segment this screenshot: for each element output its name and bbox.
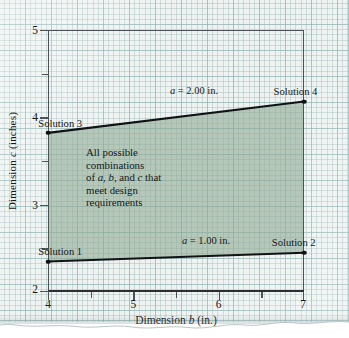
region-text-line-5: requirements xyxy=(86,196,161,209)
region-text-line-2: combinations xyxy=(86,159,161,172)
region-text-line-3-c: , and xyxy=(114,171,138,183)
y-label-4: 4 xyxy=(32,111,38,123)
feasible-region-description: All possible combinations of a, b, and c… xyxy=(86,146,161,209)
lower-line-label: a = 1.00 in. xyxy=(182,235,230,246)
solution-1-point xyxy=(46,259,51,264)
x-tick-6p5 xyxy=(261,292,262,299)
torn-paper-edge xyxy=(0,314,349,338)
x-label-6: 6 xyxy=(216,298,222,310)
axis-frame-top xyxy=(48,30,304,31)
x-label-5: 5 xyxy=(130,298,136,310)
region-text-line-3-a: of xyxy=(86,171,98,183)
y-tick-4p5 xyxy=(42,74,49,75)
x-tick-5p5 xyxy=(176,292,177,299)
y-axis-title-post: (inches) xyxy=(6,112,18,152)
y-label-5: 5 xyxy=(32,24,38,36)
region-text-line-3: of a, b, and c that xyxy=(86,171,161,184)
y-label-3: 3 xyxy=(32,199,38,211)
solution-2-point xyxy=(302,250,307,255)
lower-line-label-value: = 1.00 in. xyxy=(187,235,230,246)
region-text-line-1: All possible xyxy=(86,146,161,159)
solution-3-label: Solution 3 xyxy=(38,118,82,129)
y-tick-3 xyxy=(40,205,49,206)
upper-line-label-value: = 2.00 in. xyxy=(175,85,218,96)
region-text-line-4: meet design xyxy=(86,184,161,197)
figure-canvas: 5 4 3 2 4 5 6 7 Dimension c (inches) Dim… xyxy=(0,0,349,338)
solution-2-label: Solution 2 xyxy=(272,237,316,248)
solution-4-point xyxy=(302,99,307,104)
region-text-line-3-d: that xyxy=(142,171,161,183)
x-tick-4p5 xyxy=(91,292,92,299)
y-axis-title: Dimension c (inches) xyxy=(6,112,18,210)
upper-line-label: a = 2.00 in. xyxy=(170,85,218,96)
solution-4-label: Solution 4 xyxy=(274,86,318,97)
y-tick-5 xyxy=(40,30,49,31)
solution-1-label: Solution 1 xyxy=(38,246,82,257)
solution-3-point xyxy=(46,131,51,136)
x-label-4: 4 xyxy=(45,298,51,310)
y-tick-3p5 xyxy=(42,161,49,162)
y-axis-title-pre: Dimension xyxy=(6,157,18,210)
x-label-7: 7 xyxy=(300,298,306,310)
y-label-2: 2 xyxy=(32,283,38,295)
y-axis-title-variable: c xyxy=(6,152,18,157)
